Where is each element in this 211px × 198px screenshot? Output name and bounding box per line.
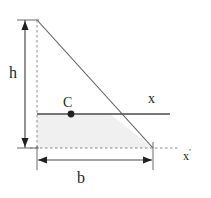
centroid-point-marker (68, 111, 75, 118)
height-label: h (9, 65, 17, 81)
shaded-region (37, 114, 153, 148)
centroid-label: C (63, 96, 72, 110)
b-arrowhead-right (143, 157, 152, 164)
base-label: b (77, 170, 85, 186)
b-arrowhead-left (38, 157, 47, 164)
x-axis-label: x (148, 92, 155, 106)
x-prime-axis-label: x′ (183, 148, 191, 162)
prime-mark-icon: ′ (189, 147, 191, 157)
centroid-triangle-figure: h b C x x′ (0, 0, 211, 198)
figure-canvas (0, 0, 211, 198)
h-arrowhead-down (21, 138, 28, 147)
h-arrowhead-up (21, 21, 28, 30)
